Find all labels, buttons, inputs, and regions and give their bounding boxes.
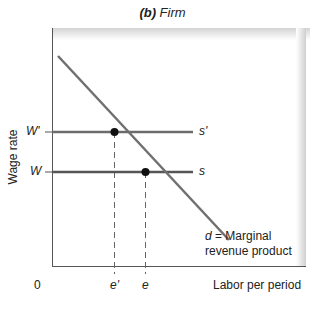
panel-top-shade [52, 28, 310, 40]
equilibrium-point-w [142, 168, 150, 176]
tick-label-e: e [142, 278, 149, 292]
equilibrium-point-w-prime [111, 128, 119, 136]
curve-label-s: s [199, 164, 205, 178]
demand-label-line1: d = Marginal [205, 229, 271, 243]
firm-labor-diagram: (b) Firm [0, 0, 325, 310]
demand-symbol: d [205, 229, 212, 243]
demand-label-line2: revenue product [205, 244, 292, 258]
tick-label-w: W [30, 164, 41, 178]
demand-line-mrp [58, 56, 229, 240]
x-axis-label: Labor per period [213, 278, 301, 292]
tick-label-w-prime: W' [26, 124, 40, 138]
curve-label-s-prime: s' [199, 124, 207, 138]
y-axis-label: Wage rate [6, 130, 20, 185]
plot-area [0, 0, 325, 310]
panel-right-shade [296, 28, 306, 266]
tick-label-e-prime: e' [110, 278, 119, 292]
demand-equation: = Marginal [215, 229, 271, 243]
origin-label: 0 [34, 278, 41, 292]
